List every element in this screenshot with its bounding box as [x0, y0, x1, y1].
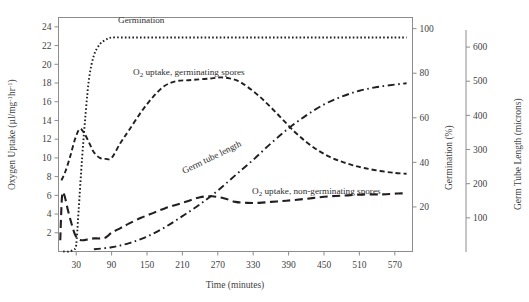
series-curve-1: [61, 77, 406, 180]
x-tick-label: 30: [71, 260, 81, 270]
y3-tick-label: 100: [473, 213, 488, 223]
x-tick-label: 90: [107, 260, 117, 270]
y1-tick-label: 4: [47, 209, 52, 219]
y1-tick-label: 22: [42, 41, 52, 51]
y1-tick-label: 8: [47, 172, 52, 182]
x-tick-label: 570: [388, 260, 403, 270]
y1-tick-label: 2: [47, 228, 52, 238]
y2-axis-ticks: 20406080100: [413, 24, 435, 212]
y1-tick-label: 14: [42, 116, 52, 126]
x-tick-label: 150: [140, 260, 155, 270]
y3-tick-label: 400: [473, 111, 488, 121]
y1-tick-label: 10: [42, 153, 52, 163]
y3-tick-label: 200: [473, 179, 488, 189]
x-tick-label: 390: [281, 260, 296, 270]
plot-frame: [59, 18, 413, 252]
y1-axis-ticks: 24681012141618202224: [42, 22, 59, 238]
y3-tick-label: 300: [473, 145, 488, 155]
series-label-germ-tube-length: Germ tube length: [180, 138, 243, 175]
y3-axis-title: Germ Tube Length (microns): [513, 98, 524, 210]
y3-tick-label: 600: [473, 42, 488, 52]
y1-axis-title: Oxygen Uptake (µl/mg-1hr-1): [6, 79, 18, 190]
y1-tick-label: 18: [42, 78, 52, 88]
figure-container: 24681012141618202224 20406080100 1002003…: [0, 0, 529, 302]
x-axis-ticks: 3090150210270330390450510570: [71, 252, 402, 270]
y1-tick-label: 12: [42, 134, 52, 144]
series-label-o2-non-germinating: O2 uptake, non-germinating spores: [252, 186, 381, 198]
y1-tick-label: 24: [42, 22, 52, 32]
y3-tick-label: 500: [473, 76, 488, 86]
x-tick-label: 450: [317, 260, 332, 270]
y2-tick-label: 100: [420, 24, 435, 34]
y1-tick-label: 6: [47, 191, 52, 201]
y3-axis: 100200300400500600: [466, 30, 488, 252]
x-axis-title: Time (minutes): [206, 280, 265, 291]
y2-tick-label: 40: [420, 158, 430, 168]
series-curve-3: [60, 192, 406, 240]
y1-tick-label: 16: [42, 97, 52, 107]
y1-tick-label: 20: [42, 60, 52, 70]
y2-tick-label: 20: [420, 202, 430, 212]
series-label-germination: Germination: [118, 15, 165, 25]
x-tick-label: 270: [211, 260, 226, 270]
y2-axis-title: Germination (%): [444, 125, 455, 190]
y2-tick-label: 80: [420, 68, 430, 78]
multi-axis-line-chart: 24681012141618202224 20406080100 1002003…: [0, 0, 529, 302]
x-tick-label: 330: [246, 260, 261, 270]
x-tick-label: 210: [175, 260, 190, 270]
x-tick-label: 510: [352, 260, 367, 270]
y2-tick-label: 60: [420, 113, 430, 123]
